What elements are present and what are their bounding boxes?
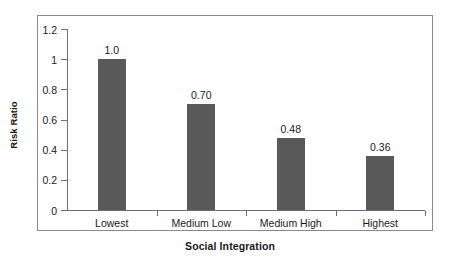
bar-value-label: 0.70 <box>171 90 231 101</box>
y-axis-tick-label: 0.4 <box>42 145 57 156</box>
bar <box>98 59 126 210</box>
bar <box>187 104 215 210</box>
bar-value-label: 1.0 <box>82 45 142 56</box>
x-axis-tick <box>425 211 426 216</box>
x-axis-tick <box>246 211 247 216</box>
y-axis-tick-label: 1 <box>51 54 57 65</box>
y-axis-tick-label: 0.8 <box>42 85 57 96</box>
y-axis-tick-label: 0.6 <box>42 115 57 126</box>
x-axis-title: Social Integration <box>0 240 460 252</box>
y-axis-tick: 1.2 <box>61 29 67 30</box>
y-axis-tick-label: 1.2 <box>42 24 57 35</box>
x-axis-category-label: Medium High <box>246 218 336 229</box>
y-axis-tick: 0.8 <box>61 89 67 90</box>
bar-value-label: 0.48 <box>261 124 321 135</box>
bar <box>366 156 394 210</box>
y-axis-line <box>67 29 68 211</box>
bar-chart-figure: 00.20.40.60.811.2 1.00.700.480.36 Lowest… <box>0 0 460 263</box>
plot-axes: 00.20.40.60.811.2 1.00.700.480.36 Lowest… <box>37 15 433 231</box>
y-axis-tick: 1 <box>61 59 67 60</box>
x-axis-tick <box>336 211 337 216</box>
y-axis-tick-label: 0.2 <box>42 175 57 186</box>
y-axis-tick: 0.6 <box>61 120 67 121</box>
y-axis-tick: 0 <box>61 210 67 211</box>
x-axis-category-label: Medium Low <box>157 218 247 229</box>
bar-value-label: 0.36 <box>350 142 410 153</box>
x-axis-category-label: Highest <box>336 218 426 229</box>
x-axis-tick <box>157 211 158 216</box>
y-axis-tick: 0.2 <box>61 180 67 181</box>
y-axis-tick: 0.4 <box>61 150 67 151</box>
x-axis-category-label: Lowest <box>67 218 157 229</box>
bar <box>277 138 305 210</box>
y-axis-tick-label: 0 <box>51 205 57 216</box>
y-axis-title: Risk Ratio <box>8 101 19 148</box>
